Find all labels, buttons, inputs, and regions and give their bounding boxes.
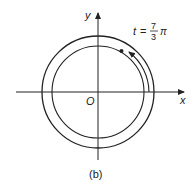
pi-symbol: π [160, 26, 167, 37]
equals-sign: = [140, 25, 146, 37]
fraction-denominator: 3 [151, 32, 156, 42]
x-axis-label: x [179, 94, 186, 106]
t-variable: t [133, 25, 137, 37]
position-point [120, 49, 124, 53]
y-axis-label: y [84, 9, 92, 21]
parametric-circle-diagram: y x O t = 7 3 π (b) [0, 0, 196, 195]
fraction-numerator: 7 [151, 21, 156, 31]
origin-label: O [86, 95, 95, 107]
figure-caption: (b) [89, 168, 102, 180]
